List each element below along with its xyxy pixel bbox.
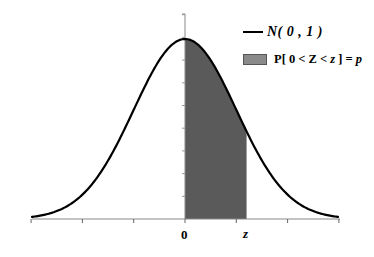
- legend-label-probability: P[ 0 < Z < z ] = p: [274, 52, 362, 67]
- legend: N( 0 , 1 ) P[ 0 < Z < z ] = p: [243, 22, 362, 69]
- x-label-zero: 0: [181, 227, 188, 243]
- x-axis-ticks: [31, 219, 339, 223]
- legend-item-probability: P[ 0 < Z < z ] = p: [243, 49, 362, 69]
- x-label-z: z: [243, 226, 248, 242]
- legend-label-normal: N( 0 , 1 ): [267, 24, 323, 40]
- shaded-probability-area: [185, 39, 247, 219]
- legend-item-normal: N( 0 , 1 ): [243, 22, 362, 42]
- legend-box-symbol: [243, 54, 267, 65]
- legend-line-symbol: [243, 31, 263, 33]
